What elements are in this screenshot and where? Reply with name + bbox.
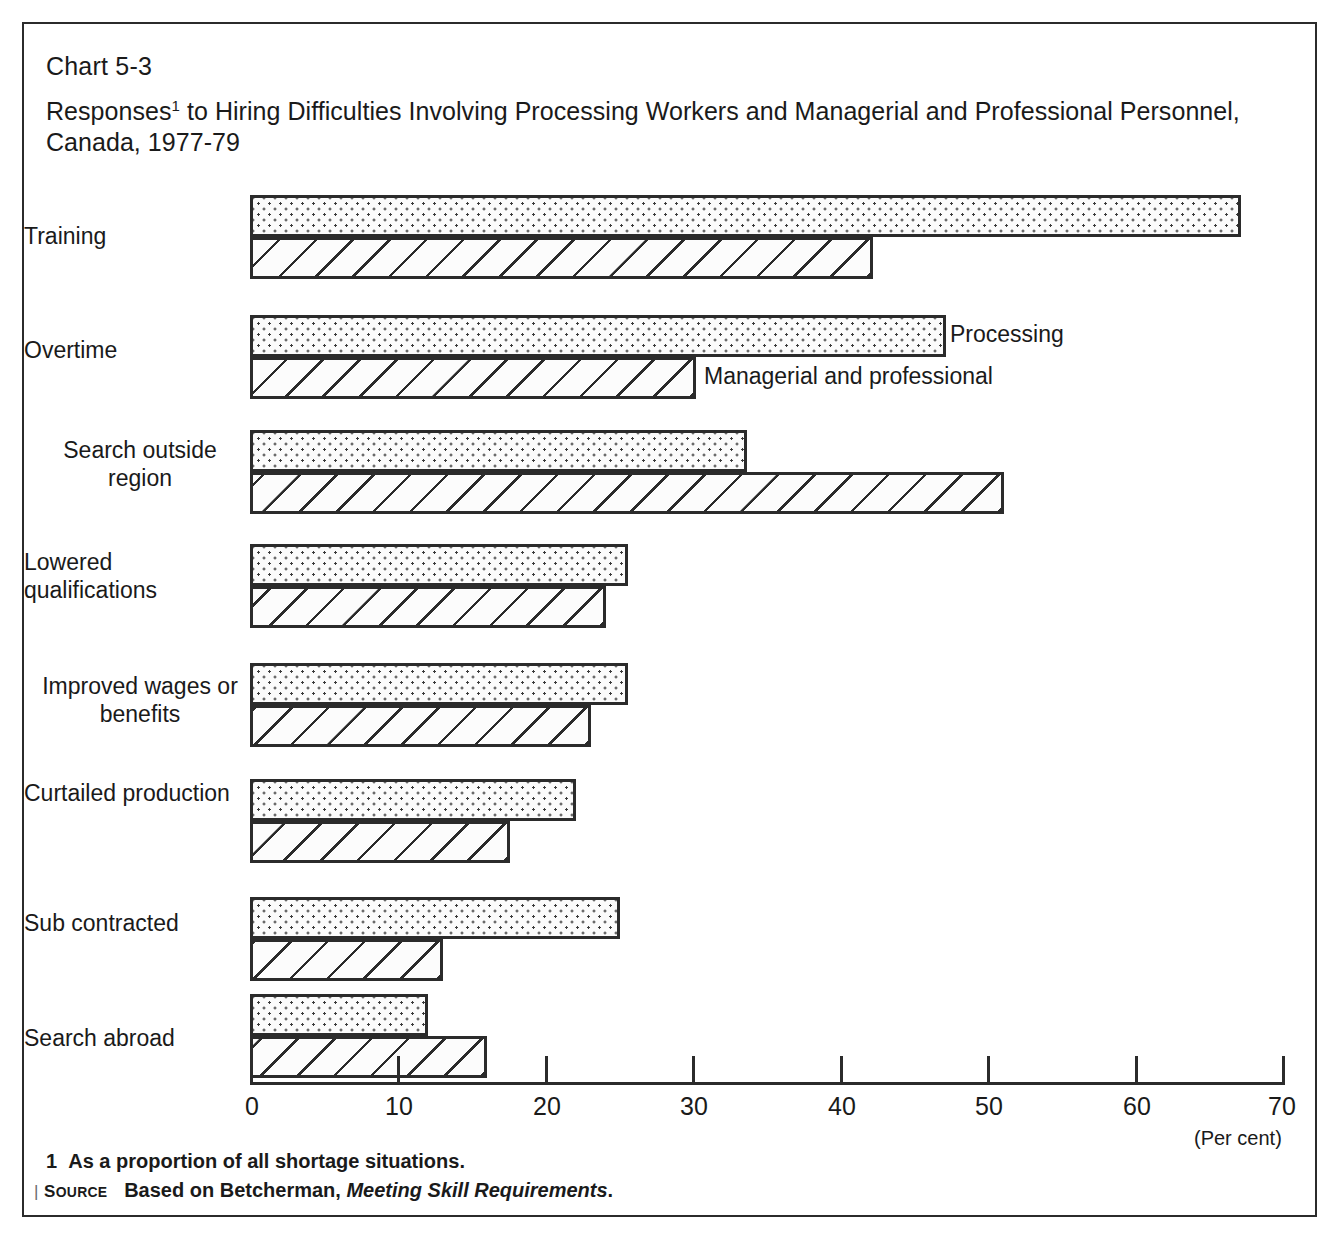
source-text-post: . [608, 1179, 614, 1201]
x-tick-label-20: 20 [533, 1092, 561, 1121]
bar-managerial-curtailed-production [250, 821, 510, 863]
category-label-sub-contracted: Sub contracted [24, 909, 256, 937]
x-tick-40 [840, 1056, 843, 1085]
bar-managerial-training [250, 237, 873, 279]
bar-processing-curtailed-production [250, 779, 576, 821]
x-tick-50 [987, 1056, 990, 1085]
x-tick-label-70: 70 [1268, 1092, 1296, 1121]
source-line: | SOURCE Based on Betcherman, Meeting Sk… [34, 1179, 613, 1202]
category-label-lowered-qualifications: Lowered qualifications [24, 548, 256, 604]
x-tick-30 [692, 1056, 695, 1085]
category-label-curtailed-production: Curtailed production [24, 779, 256, 807]
category-label-search-outside-region: Search outside region [24, 436, 256, 492]
x-axis-line [250, 1082, 1284, 1085]
bar-processing-training [250, 195, 1241, 237]
bar-processing-lowered-qualifications [250, 544, 628, 586]
x-axis-unit-label: (Per cent) [1194, 1127, 1282, 1150]
bar-processing-overtime [250, 315, 946, 357]
x-tick-label-30: 30 [680, 1092, 708, 1121]
x-tick-70 [1282, 1056, 1285, 1085]
bar-managerial-lowered-qualifications [250, 586, 606, 628]
x-tick-label-60: 60 [1123, 1092, 1151, 1121]
bar-managerial-overtime [250, 357, 696, 399]
bar-processing-search-outside-region [250, 430, 747, 472]
category-label-search-abroad: Search abroad [24, 1024, 256, 1052]
bar-processing-improved-wages-or-benefits [250, 663, 628, 705]
footnote-1: 1 As a proportion of all shortage situat… [46, 1150, 465, 1173]
x-tick-60 [1135, 1056, 1138, 1085]
axis-origin-cap [250, 1054, 253, 1085]
footnote-1-text: As a proportion of all shortage situatio… [68, 1150, 465, 1172]
plot-area: Training Overtime Search outside region … [24, 24, 1319, 1219]
bar-managerial-improved-wages-or-benefits [250, 705, 591, 747]
source-tick-mark: | [34, 1182, 38, 1201]
x-tick-label-0: 0 [245, 1092, 259, 1121]
x-tick-label-10: 10 [385, 1092, 413, 1121]
source-text-pre: Based on Betcherman, [124, 1179, 346, 1201]
category-label-overtime: Overtime [24, 336, 256, 364]
bar-processing-sub-contracted [250, 897, 620, 939]
x-tick-10 [397, 1056, 400, 1085]
source-text-italic: Meeting Skill Requirements [346, 1179, 607, 1201]
bar-managerial-search-abroad [250, 1036, 487, 1078]
bar-managerial-search-outside-region [250, 472, 1004, 514]
legend-label-managerial: Managerial and professional [704, 363, 993, 390]
footnote-1-marker: 1 [46, 1150, 57, 1172]
category-label-training: Training [24, 222, 256, 250]
bar-processing-search-abroad [250, 994, 428, 1036]
x-tick-label-50: 50 [975, 1092, 1003, 1121]
bar-managerial-sub-contracted [250, 939, 443, 981]
legend-label-processing: Processing [950, 321, 1064, 348]
category-label-improved-wages-or-benefits: Improved wages or benefits [24, 672, 256, 728]
x-tick-label-40: 40 [828, 1092, 856, 1121]
chart-frame: Chart 5-3 Responses1 to Hiring Difficult… [22, 22, 1317, 1217]
x-tick-20 [545, 1056, 548, 1085]
source-label: SOURCE [44, 1182, 107, 1201]
